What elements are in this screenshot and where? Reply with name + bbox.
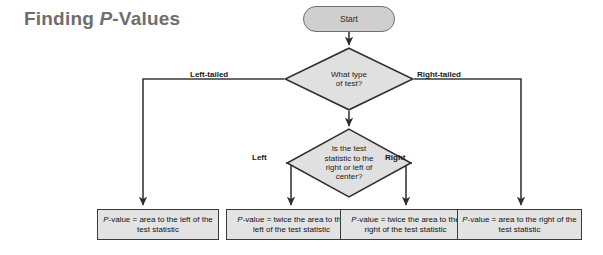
result-box-twice-left-text: -value = twice the area to the left of t…: [243, 215, 346, 234]
flowchart-canvas: Finding P-Values Start What typeof test?…: [0, 0, 603, 255]
node-decision-test-type[interactable]: What typeof test?: [284, 47, 414, 111]
node-start[interactable]: Start: [303, 6, 395, 32]
result-box-left-tail[interactable]: P-value = area to the left of the test s…: [97, 209, 219, 240]
page-title: Finding P-Values: [24, 8, 180, 30]
result-box-twice-right-text: -value = twice the area to the right of …: [357, 215, 460, 234]
result-box-right-tail-text: -value = area to the right of the test s…: [468, 215, 577, 234]
edge-label-left-tailed: Left-tailed: [190, 70, 228, 79]
node-start-label: Start: [340, 14, 358, 24]
page-title-suffix: -Values: [112, 8, 180, 29]
page-title-prefix: Finding: [24, 8, 99, 29]
node-decision-test-type-label: What typeof test?: [284, 47, 414, 111]
result-box-right-tail[interactable]: P-value = area to the right of the test …: [457, 209, 582, 240]
result-box-left-tail-text: -value = area to the left of the test st…: [109, 215, 213, 234]
edge-label-right: Right: [385, 153, 405, 162]
result-box-twice-left[interactable]: P-value = twice the area to the left of …: [226, 209, 357, 240]
node-decision-statistic-side-label: Is the teststatistic to theright or left…: [286, 128, 412, 198]
result-box-twice-right[interactable]: P-value = twice the area to the right of…: [340, 209, 471, 240]
edge-label-right-tailed: Right-tailed: [417, 70, 461, 79]
page-title-italic-p: P: [99, 8, 112, 29]
edge-label-left: Left: [252, 153, 267, 162]
node-decision-statistic-side[interactable]: Is the teststatistic to theright or left…: [286, 128, 412, 198]
